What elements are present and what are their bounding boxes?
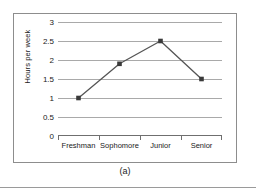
- x-axis-category-label: Senior: [191, 141, 213, 150]
- x-axis-category-label: Freshman: [62, 141, 96, 150]
- x-axis-tick: [181, 136, 182, 140]
- chart-frame: Hours per week 00.511.522.53 FreshmanSop…: [13, 13, 237, 163]
- x-axis-tick: [221, 136, 222, 140]
- x-axis-tick: [58, 136, 59, 140]
- y-axis-tick-label: 1.5: [43, 75, 54, 84]
- x-axis-category-label: Junior: [150, 141, 170, 150]
- y-axis-tick-label: 2: [50, 56, 54, 65]
- x-axis-tick: [140, 136, 141, 140]
- figure-container: Hours per week 00.511.522.53 FreshmanSop…: [0, 0, 256, 193]
- bottom-divider: [0, 187, 256, 188]
- y-axis-tick-label: 1: [50, 94, 54, 103]
- data-point-marker: [199, 77, 204, 82]
- plot-area: 00.511.522.53 FreshmanSophomoreJuniorSen…: [58, 22, 222, 136]
- y-axis-tick-label: 2.5: [43, 37, 54, 46]
- data-point-marker: [117, 62, 122, 67]
- figure-caption: (a): [13, 166, 237, 176]
- series-markers-group: [76, 39, 204, 101]
- y-axis-tick-label: 3: [50, 18, 54, 27]
- data-point-marker: [158, 39, 163, 44]
- y-axis-tick-label: 0.5: [43, 113, 54, 122]
- x-axis-tick: [99, 136, 100, 140]
- line-series-svg: [58, 22, 222, 136]
- series-line: [79, 41, 202, 98]
- y-axis-title: Hours per week: [23, 14, 32, 100]
- data-point-marker: [76, 96, 81, 101]
- y-axis-tick-label: 0: [50, 132, 54, 141]
- x-axis-category-label: Sophomore: [100, 141, 139, 150]
